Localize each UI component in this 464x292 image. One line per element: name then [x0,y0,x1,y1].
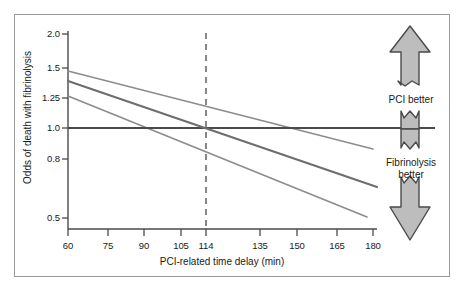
figure-container: 2.0 1.5 1.25 1.0 0.8 0.5 60 75 90 105 11… [0,0,464,292]
x-tick-label-90: 90 [128,240,160,251]
series-lower-confidence-limit [68,96,367,217]
y-tick-label-0.5: 0.5 [24,212,60,223]
pci-shaft-lower [401,111,419,129]
x-axis-ticks [68,229,373,236]
pci-better-arrow [390,26,430,86]
x-tick-label-60: 60 [52,240,84,251]
x-tick-label-150: 150 [281,240,313,251]
fibrinolysis-better-line-2: better [374,169,448,181]
y-axis-ticks [62,34,68,218]
series-upper-confidence-limit [68,71,373,149]
x-tick-label-165: 165 [321,240,353,251]
fibrinolysis-shaft-upper [401,129,419,149]
y-axis-title: Odds of death with fibrinolysis [22,28,33,208]
series-point-estimate [68,81,377,187]
x-tick-label-135: 135 [244,240,276,251]
x-tick-label-114: 114 [190,240,222,251]
fibrinolysis-better-label: Fibrinolysis better [374,157,448,181]
pci-better-label: PCI better [374,94,448,106]
x-axis-title: PCI-related time delay (min) [100,256,344,267]
x-tick-label-180: 180 [357,240,389,251]
fibrinolysis-better-line-1: Fibrinolysis [374,157,448,169]
x-tick-label-75: 75 [92,240,124,251]
fibrinolysis-better-arrow [390,176,430,240]
